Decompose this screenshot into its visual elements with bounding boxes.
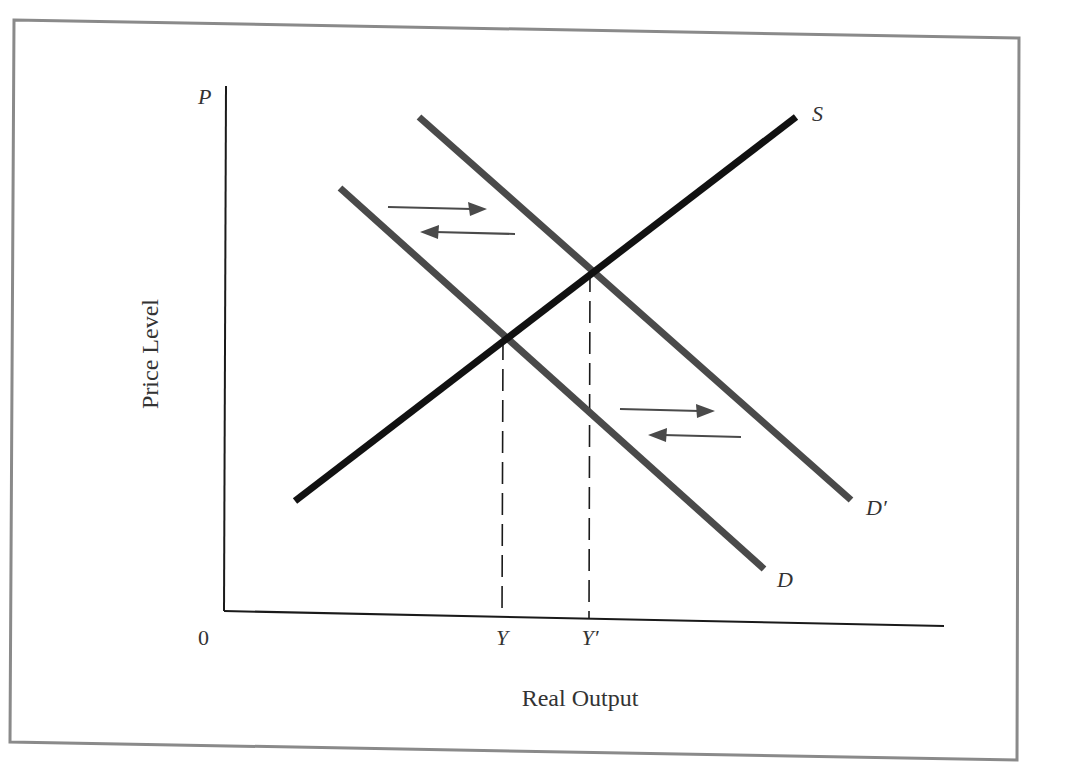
demand-curve-label: D bbox=[776, 567, 793, 592]
output-tick-y: Y bbox=[496, 625, 511, 650]
y-axis bbox=[224, 86, 226, 611]
origin-label: 0 bbox=[198, 625, 209, 650]
output-tick-y-prime: Y′ bbox=[581, 625, 599, 650]
x-axis-label: Real Output bbox=[522, 685, 639, 711]
y-axis-symbol: P bbox=[197, 84, 211, 109]
x-axis bbox=[224, 611, 944, 626]
arrow-left-icon bbox=[435, 232, 515, 234]
arrow-left-icon bbox=[663, 435, 741, 437]
arrowhead-right-icon bbox=[468, 202, 487, 216]
supply-curve-s bbox=[295, 117, 796, 501]
demand-curve-d bbox=[340, 188, 764, 569]
demand-shifted-curve-label: D′ bbox=[865, 495, 888, 520]
arrowhead-right-icon bbox=[696, 404, 715, 418]
arrow-pair-lower bbox=[620, 404, 741, 442]
equilibrium-dropline-y bbox=[502, 338, 503, 616]
equilibrium-dropline-y-prime bbox=[589, 270, 590, 618]
supply-curve-label: S bbox=[812, 101, 823, 126]
arrow-pair-upper bbox=[388, 202, 515, 239]
arrow-right-icon bbox=[388, 207, 472, 209]
aggregate-supply-demand-diagram: P Price Level 0 S D D′ Y Y′ Real Output bbox=[0, 0, 1084, 783]
demand-curve-d-prime bbox=[419, 117, 851, 500]
arrowhead-left-icon bbox=[648, 428, 667, 442]
arrow-right-icon bbox=[620, 409, 700, 411]
y-axis-label: Price Level bbox=[137, 299, 163, 409]
arrowhead-left-icon bbox=[420, 225, 439, 239]
